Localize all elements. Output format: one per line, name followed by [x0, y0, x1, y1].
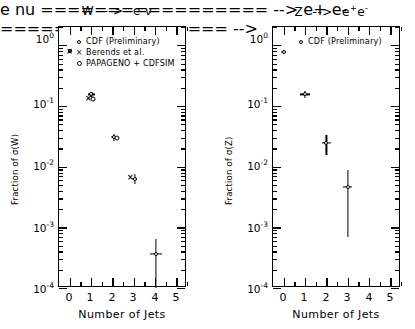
panel-w-ytick-4: 10-4: [16, 281, 54, 295]
axis-tick: [144, 282, 145, 286]
axis-tick: [273, 251, 277, 252]
axis-tick: [80, 27, 81, 31]
axis-tick: [395, 27, 399, 28]
axis-tick: [59, 180, 63, 181]
axis-tick: [181, 270, 185, 271]
axis-tick: [59, 69, 63, 70]
axis-tick: [273, 237, 277, 238]
panel-w-ytick-1: 10-1: [16, 96, 54, 110]
axis-tick: [123, 27, 124, 31]
legend-label: Berends et al.: [86, 47, 144, 58]
ytick-exp: 0: [263, 31, 268, 40]
ytick-base: 10: [250, 33, 263, 45]
axis-tick: [59, 167, 67, 168]
panel-w-xtick-0: 0: [66, 291, 73, 304]
axis-tick: [273, 51, 277, 52]
ytick-base: 10: [33, 98, 46, 110]
axis-tick: [181, 148, 185, 149]
axis-tick: [305, 27, 306, 35]
cross-x-icon: ×: [74, 47, 84, 58]
axis-tick: [273, 270, 277, 271]
axis-tick: [395, 124, 399, 125]
panel-z-ytick-4: 10-4: [230, 281, 268, 295]
panel-w-title-decay: e ν: [133, 4, 152, 18]
panel-w-xaxis-title: Number of Jets: [78, 308, 165, 321]
axis-tick: [155, 27, 156, 35]
axis-tick: [284, 27, 285, 35]
ytick-base: 10: [247, 222, 260, 234]
axis-tick: [391, 227, 399, 228]
axis-tick: [395, 270, 399, 271]
axis-tick: [181, 77, 185, 78]
axis-tick: [358, 27, 359, 31]
axis-tick: [395, 115, 399, 116]
axis-tick: [181, 185, 185, 186]
axis-tick: [273, 241, 277, 242]
axis-tick: [273, 112, 277, 113]
panel-w-xtick-1: 1: [87, 291, 94, 304]
panel-z-title-sup2: -: [365, 4, 368, 13]
axis-tick: [273, 185, 277, 186]
axis-tick: [59, 270, 63, 271]
axis-tick: [181, 88, 185, 89]
datapoint-cross-icon: ×: [127, 173, 134, 180]
ytick-exp: -1: [261, 96, 268, 105]
axis-tick: [395, 230, 399, 231]
axis-tick: [395, 173, 399, 174]
axis-tick: [181, 138, 185, 139]
axis-tick: [91, 27, 92, 35]
axis-tick: [59, 251, 63, 252]
axis-tick: [337, 282, 338, 286]
axis-tick: [181, 176, 185, 177]
panel-w-title-boson: W: [82, 4, 94, 18]
axis-tick: [187, 27, 188, 31]
axis-tick: [273, 230, 277, 231]
axis-tick: [181, 124, 185, 125]
axis-tick: [395, 259, 399, 260]
axis-tick: [177, 167, 185, 168]
axis-tick: [181, 115, 185, 116]
ytick-exp: -3: [47, 220, 54, 229]
panel-z-xtick-0: 0: [280, 291, 287, 304]
axis-tick: [59, 138, 63, 139]
axis-tick: [395, 55, 399, 56]
ytick-base: 10: [36, 33, 49, 45]
datapoint-cross-icon: ×: [66, 48, 73, 55]
axis-tick: [177, 227, 185, 228]
axis-tick: [395, 209, 399, 210]
panel-z-xtick-3: 3: [344, 291, 351, 304]
axis-tick: [134, 278, 135, 286]
scan-artifact: [8, 321, 10, 328]
axis-tick: [316, 282, 317, 286]
panel-z-xtick-2: 2: [323, 291, 330, 304]
axis-tick: [59, 198, 63, 199]
axis-tick: [273, 45, 281, 46]
axis-tick: [181, 109, 185, 110]
axis-tick: [401, 27, 402, 31]
axis-tick: [144, 27, 145, 31]
error-bar-vertical: [347, 170, 348, 236]
ytick-exp: -4: [47, 281, 54, 290]
axis-tick: [395, 88, 399, 89]
panel-w-xtick-5: 5: [173, 291, 180, 304]
axis-tick: [59, 51, 63, 52]
axis-tick: [395, 138, 399, 139]
axis-tick: [59, 259, 63, 260]
open-circle-icon: [74, 36, 84, 47]
panel-z-plotbox: [272, 26, 400, 287]
axis-tick: [181, 173, 185, 174]
axis-tick: [273, 64, 277, 65]
panel-z-xtick-4: 4: [366, 291, 373, 304]
axis-tick: [59, 209, 63, 210]
axis-tick: [395, 119, 399, 120]
axis-tick: [59, 185, 63, 186]
axis-tick: [273, 138, 277, 139]
panel-z-xtick-1: 1: [301, 291, 308, 304]
panel-z-ytick-3: 10-3: [230, 220, 268, 234]
axis-tick: [348, 278, 349, 286]
legend-label: CDF (Preliminary): [308, 36, 382, 47]
axis-tick: [391, 288, 399, 289]
legend-item-cdf: CDF (Preliminary): [296, 36, 400, 47]
axis-tick: [395, 185, 399, 186]
panel-z-ytick-0: 100: [230, 31, 268, 45]
